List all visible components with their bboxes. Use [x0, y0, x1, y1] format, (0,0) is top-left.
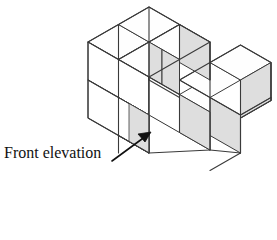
mid-front-shade: [180, 95, 211, 151]
edge-bottom-front: [149, 150, 210, 153]
front-elevation-label: Front elevation: [4, 144, 101, 162]
